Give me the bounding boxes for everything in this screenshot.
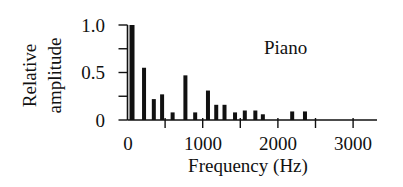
bar [303, 111, 307, 120]
bar [183, 75, 187, 120]
bar [243, 111, 247, 121]
y-tick-label-0: 0 [65, 111, 105, 130]
bar [253, 111, 257, 121]
instrument-label: Piano [264, 38, 307, 57]
bar [130, 25, 135, 120]
x-tick-label-3000: 3000 [323, 134, 383, 153]
bar [233, 112, 237, 120]
bar [206, 91, 210, 120]
y-tick-label-1-0: 1.0 [65, 16, 105, 35]
y-axis-label-line1: Relative [20, 41, 39, 111]
y-tick-label-0-5: 0.5 [65, 63, 105, 82]
bar [223, 105, 227, 120]
bar [261, 114, 265, 120]
bar [160, 94, 164, 120]
y-axis-label-line2: amplitude [45, 31, 64, 121]
bar [142, 68, 146, 120]
bar [290, 111, 294, 120]
bar [171, 112, 175, 120]
axes [119, 25, 378, 128]
bar [152, 99, 156, 120]
bar [193, 112, 197, 120]
x-tick-label-0: 0 [98, 134, 158, 153]
x-tick-label-2000: 2000 [248, 134, 308, 153]
x-tick-label-1000: 1000 [173, 134, 233, 153]
x-axis-label: Frequency (Hz) [128, 156, 368, 175]
bar [214, 105, 218, 120]
